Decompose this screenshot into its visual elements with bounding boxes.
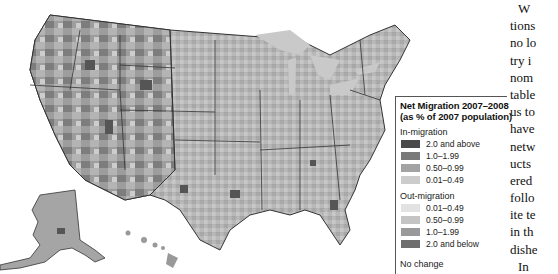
legend-swatch — [401, 228, 420, 236]
alaska — [0, 190, 105, 270]
body-text-line: follo — [510, 189, 558, 206]
in_migration-item: 2.0 and above — [401, 138, 507, 150]
legend-title: Net Migration 2007–2008 — [400, 100, 507, 111]
body-text-line: try i — [510, 52, 558, 69]
legend-item-label: 0.50–0.99 — [426, 163, 464, 173]
map-legend: Net Migration 2007–2008 (as % of 2007 po… — [395, 96, 507, 274]
legend-subtitle: (as % of 2007 population) — [400, 111, 507, 122]
body-text-line: netw — [510, 138, 558, 155]
legend-out-migration-label: Out-migration — [400, 191, 507, 202]
body-text-line: ucts — [510, 155, 558, 172]
legend-item-label: 1.0–1.99 — [426, 227, 459, 237]
legend-swatch — [401, 164, 420, 172]
body-text-line: in th — [510, 223, 558, 240]
body-text-line: us to — [510, 103, 558, 120]
legend-item-label: 2.0 and below — [426, 239, 479, 249]
body-text-line: tions — [510, 17, 558, 34]
body-text-line: In — [510, 258, 558, 274]
in_migration-item: 0.50–0.99 — [401, 162, 507, 174]
legend-item-label: 2.0 and above — [426, 139, 480, 149]
legend-in-migration-label: In-migration — [400, 127, 507, 138]
legend-item-label: 0.50–0.99 — [426, 215, 464, 225]
body-text-line: table — [510, 86, 558, 103]
legend-item-label: 0.01–0.49 — [426, 203, 464, 213]
out_migration-item: 2.0 and below — [401, 238, 507, 250]
out_migration-item: 0.01–0.49 — [401, 202, 507, 214]
legend-item-label: 1.0–1.99 — [426, 151, 459, 161]
legend-item-label: 0.01–0.49 — [426, 175, 464, 185]
body-text-line: dishe — [510, 241, 558, 258]
in_migration-item: 0.01–0.49 — [401, 174, 507, 186]
body-text-line: have — [510, 120, 558, 137]
legend-swatch — [401, 152, 420, 160]
legend-swatch — [401, 140, 420, 148]
legend-swatch — [401, 216, 420, 224]
western-us — [30, 15, 175, 200]
body-text-line: ered — [510, 172, 558, 189]
hawaii — [126, 231, 179, 269]
legend-swatch — [401, 176, 420, 184]
body-text-line: ite te — [510, 206, 558, 223]
legend-no-change-label: No change — [400, 259, 507, 270]
legend-swatch — [401, 204, 420, 212]
body-text-line: no lo — [510, 34, 558, 51]
out_migration-item: 1.0–1.99 — [401, 226, 507, 238]
body-text-column: Wtionsno lotry inomtableus tohavenetwuct… — [510, 0, 558, 274]
in_migration-item: 1.0–1.99 — [401, 150, 507, 162]
body-text-line: W — [510, 0, 558, 17]
legend-swatch — [401, 240, 420, 248]
body-text-line: nom — [510, 69, 558, 86]
out_migration-item: 0.50–0.99 — [401, 214, 507, 226]
